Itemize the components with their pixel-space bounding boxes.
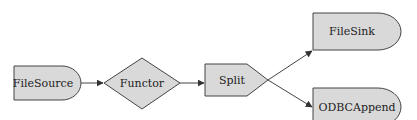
filesink-label: FileSink — [329, 25, 375, 38]
functor-label: Functor — [120, 77, 165, 90]
split-label: Split — [219, 74, 246, 87]
edge-split-filesink — [268, 51, 312, 80]
node-filesink[interactable]: FileSink — [313, 13, 401, 50]
node-odbcappend[interactable]: ODBCAppend — [313, 88, 401, 120]
node-filesource[interactable]: FileSource — [13, 66, 81, 100]
filesource-label: FileSource — [13, 77, 73, 90]
edge-split-odbcappend — [268, 80, 312, 107]
node-split[interactable]: Split — [205, 64, 268, 96]
flow-diagram: FileSource Functor Split FileSink ODBCAp… — [0, 0, 417, 120]
node-functor[interactable]: Functor — [104, 58, 180, 109]
odbcappend-label: ODBCAppend — [318, 101, 395, 114]
